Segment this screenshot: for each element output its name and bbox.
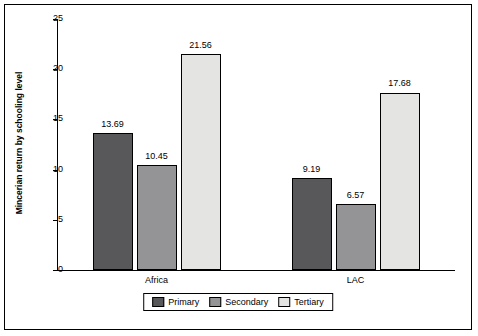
bar-value-label: 13.69	[85, 119, 141, 129]
y-axis-line	[57, 19, 58, 271]
y-axis-title: Mincerian return by schooling level	[11, 23, 27, 263]
bar	[292, 178, 332, 270]
bar	[380, 93, 420, 271]
bar-value-label: 10.45	[129, 151, 185, 161]
y-axis-tick-mark	[53, 69, 57, 70]
y-axis-tick-mark	[53, 170, 57, 171]
legend-item: Secondary	[209, 297, 268, 307]
legend-swatch	[278, 297, 290, 307]
chart-frame: Mincerian return by schooling level 0510…	[4, 4, 472, 330]
y-axis-title-label: Mincerian return by schooling level	[14, 72, 24, 215]
x-axis-category-label: Africa	[57, 275, 256, 285]
legend-label: Primary	[168, 297, 199, 307]
legend-item: Primary	[152, 297, 199, 307]
bar-value-label: 17.68	[372, 78, 428, 88]
x-axis-category-label: LAC	[256, 275, 455, 285]
legend-swatch	[209, 297, 221, 307]
bar	[181, 54, 221, 270]
bar	[137, 165, 177, 270]
x-axis-line	[57, 270, 455, 271]
y-axis-tick-mark	[53, 220, 57, 221]
legend-swatch	[152, 297, 164, 307]
legend-item: Tertiary	[278, 297, 324, 307]
bar-value-label: 21.56	[173, 40, 229, 50]
bar	[93, 133, 133, 270]
plot-area: 0510152025 13.6910.4521.569.196.5717.68 …	[57, 19, 455, 271]
legend-label: Secondary	[225, 297, 268, 307]
y-axis-tick-mark	[53, 19, 57, 20]
bar-value-label: 9.19	[284, 164, 340, 174]
y-axis-tick-mark	[53, 270, 57, 271]
bar	[336, 204, 376, 270]
legend-label: Tertiary	[294, 297, 324, 307]
y-axis-tick-mark	[53, 119, 57, 120]
chart-legend: PrimarySecondaryTertiary	[143, 293, 333, 311]
bar-value-label: 6.57	[328, 190, 384, 200]
